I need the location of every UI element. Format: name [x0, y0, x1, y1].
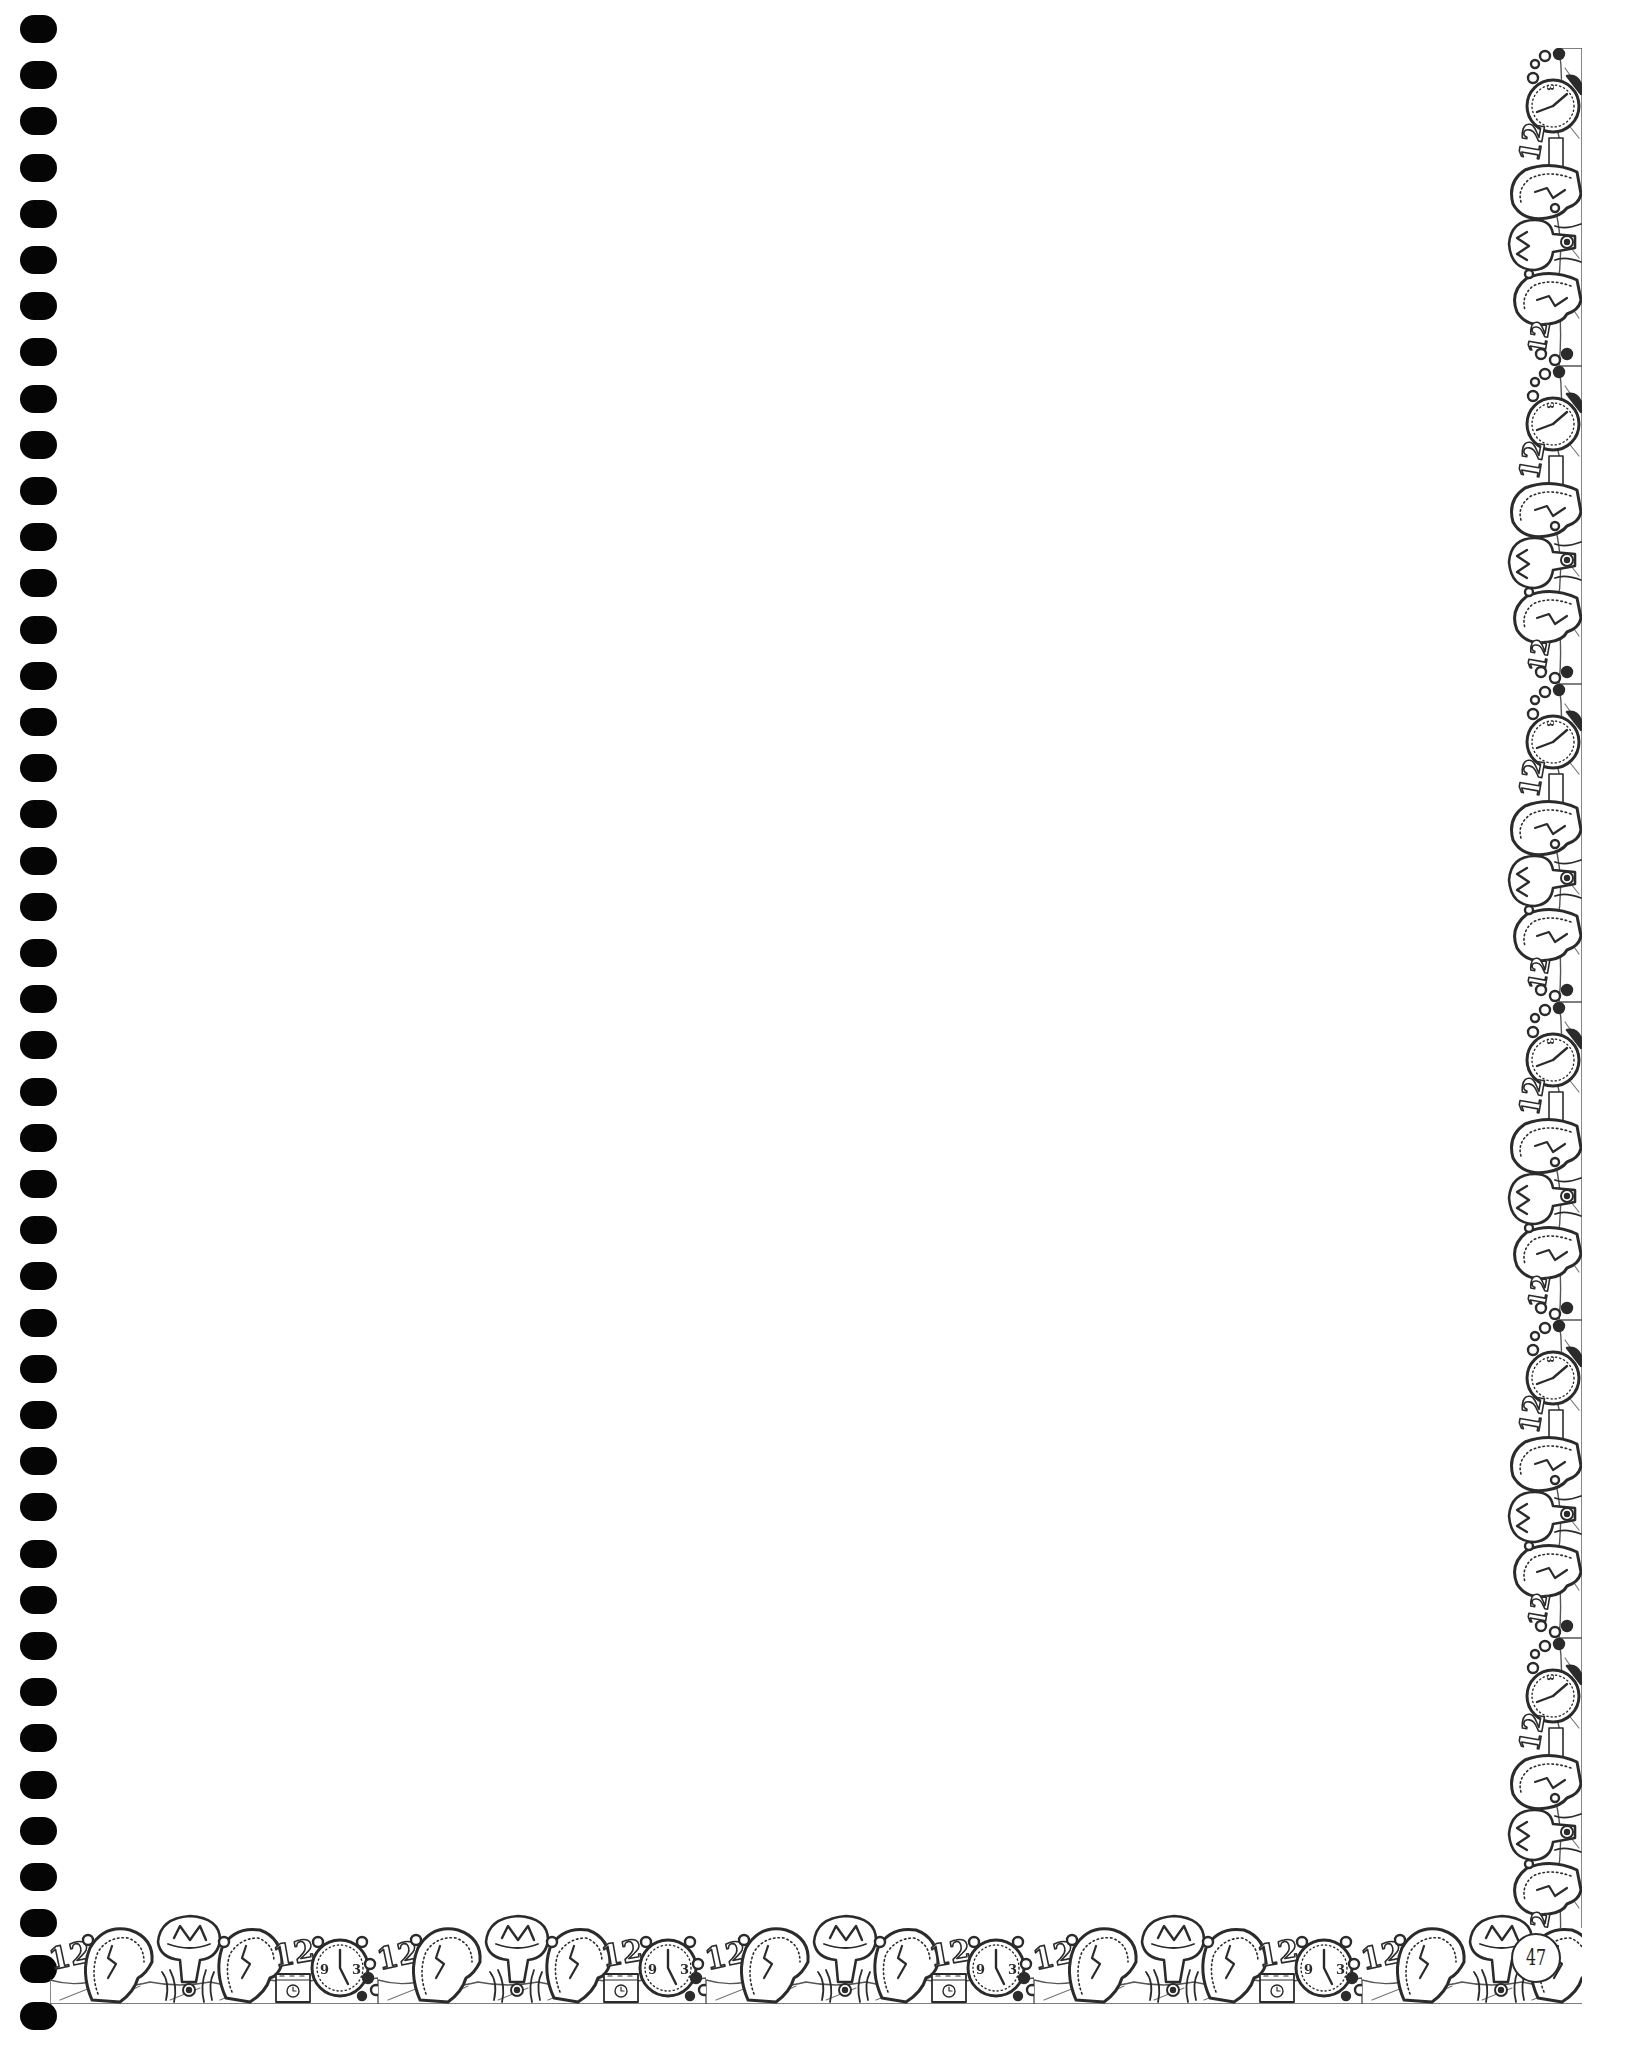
binder-hole: [20, 1031, 57, 1059]
binder-hole: [20, 431, 57, 459]
binder-hole: [20, 1216, 57, 1244]
bottom-clock-border: 12: [50, 1912, 1582, 2004]
clock-doodle-column-icon: 3 12: [1505, 48, 1582, 1928]
binder-hole: [20, 1124, 57, 1152]
binder-hole: [20, 292, 57, 320]
binder-hole: [20, 1355, 57, 1383]
binder-hole: [20, 15, 57, 43]
binder-hole: [20, 1540, 57, 1568]
binder-hole: [20, 1863, 57, 1891]
binder-hole: [20, 246, 57, 274]
page-number-badge: 47: [1511, 1933, 1561, 1983]
binder-holes: [20, 15, 58, 2045]
binder-hole: [20, 985, 57, 1013]
binder-hole: [20, 1724, 57, 1752]
binder-hole: [20, 662, 57, 690]
clock-doodle-strip-icon: 12: [50, 1912, 1582, 2004]
binder-hole: [20, 893, 57, 921]
binder-hole: [20, 1309, 57, 1337]
binder-hole: [20, 708, 57, 736]
right-clock-border: 3 12: [1505, 48, 1582, 1928]
binder-hole: [20, 61, 57, 89]
binder-hole: [20, 1401, 57, 1429]
binder-hole: [20, 107, 57, 135]
binder-hole: [20, 1447, 57, 1475]
binder-hole: [20, 800, 57, 828]
binder-hole: [20, 569, 57, 597]
binder-hole: [20, 385, 57, 413]
binder-hole: [20, 1632, 57, 1660]
binder-hole: [20, 477, 57, 505]
binder-hole: [20, 1586, 57, 1614]
page-number: 47: [1526, 1947, 1546, 1969]
binder-hole: [20, 2002, 57, 2030]
binder-hole: [20, 200, 57, 228]
binder-hole: [20, 847, 57, 875]
binder-hole: [20, 154, 57, 182]
binder-hole: [20, 939, 57, 967]
binder-hole: [20, 523, 57, 551]
binder-hole: [20, 1078, 57, 1106]
binder-hole: [20, 1170, 57, 1198]
binder-hole: [20, 338, 57, 366]
notebook-page: 12: [0, 0, 1626, 2047]
binder-hole: [20, 1493, 57, 1521]
binder-hole: [20, 1771, 57, 1799]
binder-hole: [20, 754, 57, 782]
binder-hole: [20, 1262, 57, 1290]
binder-hole: [20, 1678, 57, 1706]
binder-hole: [20, 616, 57, 644]
binder-hole: [20, 1817, 57, 1845]
writing-area: [80, 20, 1500, 1900]
